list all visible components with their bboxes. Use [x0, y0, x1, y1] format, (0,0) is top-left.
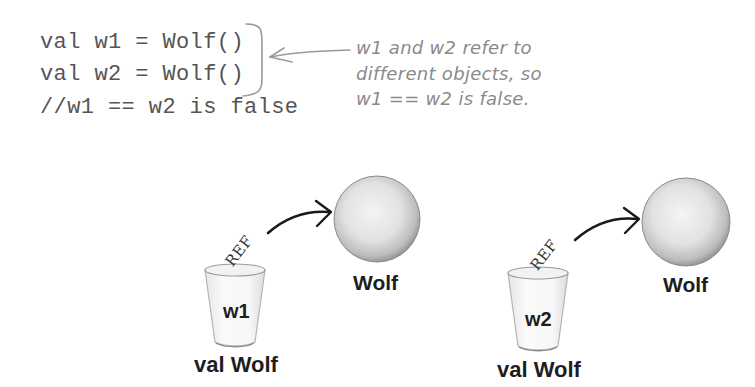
sphere-icon	[334, 176, 420, 262]
reference-equality-diagram: val w1 = Wolf() val w2 = Wolf() //w1 == …	[0, 0, 755, 387]
curved-arrow-icon	[268, 201, 331, 233]
annotation-line-1: w1 and w2 refer to	[356, 37, 532, 59]
variable-type-2: val Wolf	[497, 358, 581, 382]
variable-name-1: w1	[223, 301, 250, 321]
sphere-icon	[642, 178, 730, 266]
annotation-line-3: w1 == w2 is false.	[356, 88, 530, 110]
object-label-2: Wolf	[663, 274, 708, 296]
variable-type-1: val Wolf	[194, 353, 278, 377]
brace-icon	[243, 24, 262, 96]
code-line-2: val w2 = Wolf()	[40, 64, 244, 86]
code-line-1: val w1 = Wolf()	[40, 32, 244, 54]
annotation-line-2: different objects, so	[356, 63, 542, 85]
variable-name-2: w2	[525, 309, 552, 329]
code-line-3: //w1 == w2 is false	[40, 97, 298, 119]
annotation-arrow-icon	[270, 48, 350, 62]
object-label-1: Wolf	[353, 272, 398, 294]
curved-arrow-icon	[575, 208, 639, 240]
